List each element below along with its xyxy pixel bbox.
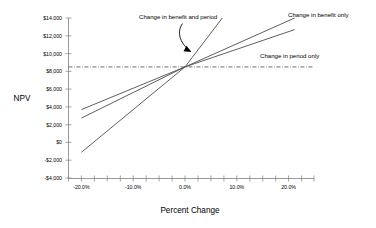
y-tick-label: -$2,000 [44,157,62,163]
annotation-benefit-only: Change in benefit only [288,11,350,18]
y-tick-label: $6,000 [46,86,62,92]
npv-sensitivity-chart: $14,000 $12,000 $10,000 $8,000 $6,000 $4… [0,0,376,228]
y-tick-label: -$4,000 [44,175,62,181]
x-tick-label: 10.0% [229,184,244,190]
x-tick-label: -20.0% [73,184,90,190]
y-axis-tick-labels: $14,000 $12,000 $10,000 $8,000 $6,000 $4… [43,15,62,181]
y-tick-label: $8,000 [46,68,62,74]
annotation-benefit-and-period: Change in benefit and period [139,13,217,20]
x-tick-label: -10.0% [125,184,142,190]
callout-arrow-head-icon [184,46,192,52]
y-tick-label: $14,000 [43,15,62,21]
y-axis-title: NPV [14,94,31,103]
x-axis-title: Percent Change [160,206,220,215]
y-tick-label: $10,000 [43,51,62,57]
x-tick-label: 20.0% [281,184,296,190]
callout-arrow-line [179,24,188,50]
annotation-period-only: Change in period only [260,52,320,59]
series-line-change-in-benefit-and-period [81,18,222,152]
x-axis-tick-labels: -20.0% -10.0% 0.0% 10.0% 20.0% [73,184,296,190]
y-tick-label: $12,000 [43,33,62,39]
series-line-change-in-period-only [81,30,294,110]
y-tick-label: $4,000 [46,104,62,110]
y-tick-label: $0 [56,139,62,145]
y-tick-label: $2,000 [46,122,62,128]
chart-canvas: $14,000 $12,000 $10,000 $8,000 $6,000 $4… [0,0,376,228]
series-line-change-in-benefit-only [81,18,294,118]
x-tick-label: 0.0% [179,184,191,190]
